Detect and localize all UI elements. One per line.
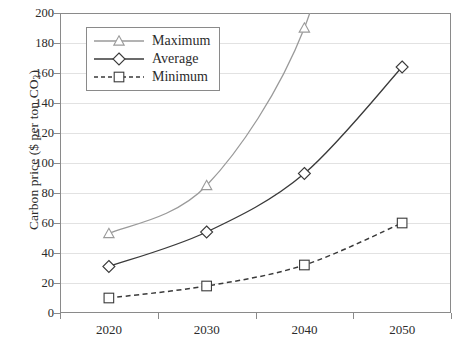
legend-label: Minimum (145, 68, 208, 86)
series-line (109, 67, 402, 267)
y-axis-tick-label: 40 (14, 247, 54, 259)
data-point-marker (201, 226, 213, 238)
series-minimum (104, 218, 407, 303)
x-axis-tick-label: 2040 (264, 322, 344, 338)
x-axis-tick-mark (60, 313, 61, 319)
x-axis-tick-mark (451, 313, 452, 319)
data-point-marker (103, 261, 115, 273)
data-point-marker (113, 53, 125, 65)
y-axis-tick-label: 180 (14, 37, 54, 49)
x-axis-tick-mark (158, 313, 159, 319)
series-line (109, 223, 402, 298)
data-point-marker (114, 72, 124, 82)
y-axis-tick-label: 0 (14, 307, 54, 319)
data-point-marker (202, 281, 212, 291)
legend-symbol-diamond-icon (93, 50, 145, 68)
x-axis-tick-label: 2050 (362, 322, 442, 338)
data-point-marker (299, 23, 309, 32)
legend-label: Average (145, 50, 198, 68)
y-axis-tick-label: 100 (14, 157, 54, 169)
y-axis-tick-label: 200 (14, 7, 54, 19)
y-axis-tick-label: 60 (14, 217, 54, 229)
x-axis-tick-label: 2020 (69, 322, 149, 338)
x-axis-tick-mark (353, 313, 354, 319)
legend-item-average: Average (93, 50, 210, 68)
series-average (103, 61, 408, 273)
y-axis-tick-label: 160 (14, 67, 54, 79)
x-axis-tick-label: 2030 (167, 322, 247, 338)
legend-symbol-triangle-icon (93, 32, 145, 50)
data-point-marker (104, 228, 114, 237)
legend-item-minimum: Minimum (93, 68, 210, 86)
legend: MaximumAverageMinimum (86, 27, 220, 91)
data-point-marker (300, 260, 310, 270)
carbon-price-line-chart: Carbon price ($ per ton CO2) 02040608010… (0, 0, 464, 344)
y-axis-tick-label: 80 (14, 187, 54, 199)
legend-label: Maximum (145, 32, 210, 50)
legend-symbol-square-icon (93, 68, 145, 86)
y-axis-tick-label: 20 (14, 277, 54, 289)
legend-item-maximum: Maximum (93, 32, 210, 50)
y-axis-tick-label: 120 (14, 127, 54, 139)
y-axis-tick-label: 140 (14, 97, 54, 109)
data-point-marker (104, 293, 114, 303)
data-point-marker (397, 218, 407, 228)
x-axis-tick-mark (256, 313, 257, 319)
